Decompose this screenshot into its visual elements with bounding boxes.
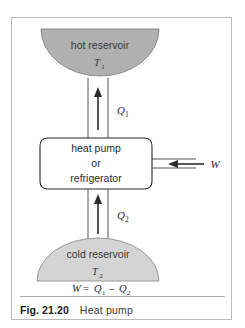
q2-label: Q 2 xyxy=(117,209,129,224)
hot-reservoir: hot reservoir T 1 xyxy=(41,29,159,76)
cold-reservoir-temperature-subscript: 2 xyxy=(99,272,103,280)
equation-minus: – xyxy=(108,283,115,294)
device-box-line2: or xyxy=(91,157,101,169)
figure-frame: hot reservoir T 1 Q 1 W xyxy=(11,17,232,320)
equation-term1: Q xyxy=(94,283,102,294)
equation-lhs: W xyxy=(72,283,82,294)
q2-flow-arrow xyxy=(94,194,102,234)
work-flow-arrow xyxy=(168,160,204,168)
heat-pump-diagram: hot reservoir T 1 Q 1 W xyxy=(12,18,233,321)
device-box-line3: refrigerator xyxy=(70,172,122,184)
work-label: W xyxy=(210,158,220,170)
device-box-line1: heat pump xyxy=(71,142,121,154)
q1-symbol: Q xyxy=(117,104,125,116)
q1-label: Q 1 xyxy=(117,104,129,119)
device-box: heat pump or refrigerator xyxy=(40,138,152,189)
q2-symbol: Q xyxy=(117,209,125,221)
q2-subscript: 2 xyxy=(125,215,129,224)
equation: W = Q 1 – Q 2 xyxy=(72,283,131,297)
figure-number: Fig. 21.20 xyxy=(20,304,69,316)
cold-reservoir-label: cold reservoir xyxy=(66,248,130,260)
equation-term2: Q xyxy=(119,283,127,294)
hot-reservoir-shape xyxy=(41,29,159,76)
q1-subscript: 1 xyxy=(125,110,129,119)
q1-flow-arrow xyxy=(94,87,102,130)
caption-divider xyxy=(20,296,225,297)
hot-reservoir-label: hot reservoir xyxy=(71,39,130,51)
figure-title: Heat pump xyxy=(80,304,133,316)
equation-equals: = xyxy=(83,283,89,294)
hot-reservoir-temperature-subscript: 1 xyxy=(101,63,105,71)
figure-caption: Fig. 21.20 Heat pump xyxy=(20,301,225,319)
cold-reservoir: cold reservoir T 2 xyxy=(37,238,159,281)
